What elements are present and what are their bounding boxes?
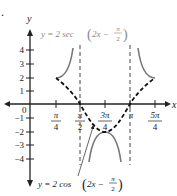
x-tick-3pi-over-4: 3π 4 [98,110,112,132]
y-tick-neg3: −3 [14,140,24,150]
svg-text:y = 2 cos: y = 2 cos [37,179,72,189]
x-tick-pi-over-4: π 4 [51,110,61,132]
cos-equation-label: y = 2 cos ( 2x − π 2 ) [37,175,123,193]
x-tick-5pi-over-4: 5π 4 [148,110,162,132]
svg-text:4: 4 [103,122,108,132]
y-tick-1: 1 [20,86,25,96]
figure-marker: . [1,5,4,19]
sec-equation-label: y = 2 sec ( 2x − π 2 ) [40,25,128,43]
svg-text:2x −: 2x − [87,179,104,189]
y-axis-arrow-down-icon [27,180,33,187]
svg-text:4: 4 [153,122,158,132]
y-axis-arrow-up-icon [27,29,33,36]
x-axis-label: x [171,99,177,110]
y-tick-neg4: −4 [14,154,24,164]
svg-text:2x −: 2x − [92,29,109,39]
y-tick-3: 3 [20,59,25,69]
y-tick-2: 2 [20,73,25,83]
y-tick-neg2: −2 [14,127,24,137]
svg-text:3π: 3π [99,110,110,120]
x-axis-arrow-right-icon [165,101,171,107]
svg-text:π: π [54,110,59,120]
svg-text:5π: 5π [150,110,160,120]
svg-text:4: 4 [54,122,59,132]
svg-text:π: π [111,175,115,183]
svg-text:): ) [123,27,128,43]
svg-text:2: 2 [111,185,115,193]
svg-text:y = 2 sec: y = 2 sec [40,29,74,39]
graph: . x π 4 π 2 3π 4 π 5π [0,0,177,196]
y-tick-4: 4 [20,45,25,55]
x-tick-pi: π [129,110,134,120]
svg-text:π: π [129,110,134,120]
x-axis-arrow-left-icon [4,101,10,107]
y-axis-label: y [26,13,32,24]
svg-text:): ) [118,177,123,193]
svg-text:π: π [116,25,120,33]
y-tick-neg1: −1 [14,113,24,123]
x-tick-pi-over-2: π 2 [75,110,85,132]
svg-text:2: 2 [116,35,120,43]
y-axis: y 0 4 3 2 1 −1 −2 −3 −4 [14,13,34,187]
